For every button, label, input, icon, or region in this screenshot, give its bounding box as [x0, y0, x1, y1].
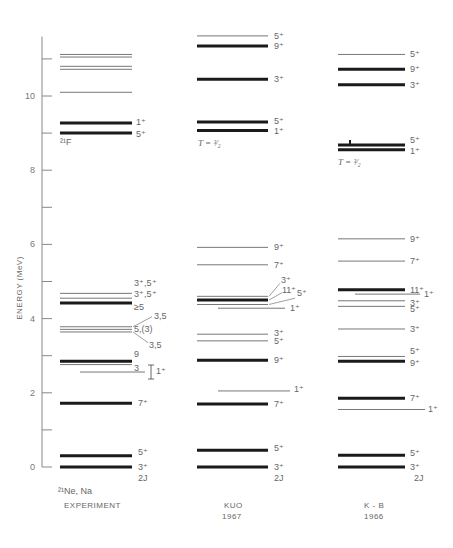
kuo-label: 11⁺ [282, 285, 296, 295]
kb-title: K - B [364, 501, 384, 510]
y-axis: 0246810 [25, 37, 52, 472]
kb-label: 5⁺ [410, 49, 420, 59]
exp-label: 5⁺ [136, 129, 146, 139]
kuo-label: 9⁺ [274, 355, 284, 365]
kb-label: 7⁺ [410, 256, 420, 266]
exp-label: 3⁺ [138, 462, 148, 472]
kb-label: 3⁺ [410, 324, 420, 334]
kuo-label: 3⁺ [274, 74, 284, 84]
kuo-label: 3⁺ [274, 328, 284, 338]
exp-label: 3⁺,5⁺ [134, 278, 157, 288]
level-labels: 3⁺5⁺7⁺931⁺5,(3)3,53,5≥53⁺,5⁺3⁺,5⁺5⁺1⁺3⁺5… [133, 31, 438, 472]
kuo-label: 1⁺ [290, 303, 300, 313]
exp-label: 3,5 [149, 340, 162, 350]
y-tick-label: 4 [30, 314, 35, 324]
exp-label: 3,5 [154, 311, 167, 321]
y-axis-title: ENERGY (MeV) [15, 256, 24, 320]
experiment-21F-note: ²¹F [60, 137, 72, 147]
kuo-label: 3⁺ [274, 462, 284, 472]
kb-label: 11⁺ [410, 285, 424, 295]
kuo-label: 1⁺ [294, 384, 304, 394]
kb-label: 3⁺ [410, 462, 420, 472]
exp-label: ≥5 [134, 302, 144, 312]
y-tick-label: 10 [25, 91, 35, 101]
kb-label: 3⁺ [410, 298, 420, 308]
kb-label: 9⁺ [410, 358, 420, 368]
kuo-label: 1⁺ [274, 126, 284, 136]
kb-isospin-note: T = ³⁄₂ [338, 157, 361, 167]
kb-label: 5⁺ [410, 135, 420, 145]
kb-label: 1⁺ [410, 146, 420, 156]
exp-label: 1⁺ [136, 117, 146, 127]
kb-year: 1966 [364, 512, 384, 521]
kuo-label: 5⁺ [297, 288, 307, 298]
kb-label: 5⁺ [410, 346, 420, 356]
exp-label: 5,(3) [134, 324, 153, 334]
y-tick-label: 6 [30, 239, 35, 249]
kuo-label: 7⁺ [274, 399, 284, 409]
experiment-title: EXPERIMENT [64, 501, 121, 510]
experiment-nucleus-label: ²¹Ne, Na [58, 486, 92, 496]
kb-label: 9⁺ [410, 64, 420, 74]
kuo-isospin-note: T = ³⁄₂ [198, 138, 221, 148]
levels [60, 36, 425, 467]
kuo-label: 3⁺ [281, 275, 291, 285]
exp-label: 3 [134, 363, 139, 373]
y-tick-label: 8 [30, 165, 35, 175]
kb-label: 7⁺ [410, 393, 420, 403]
y-tick-label: 0 [30, 462, 35, 472]
exp-label: 1⁺ [156, 366, 166, 376]
exp-label: 3⁺,5⁺ [134, 289, 157, 299]
kuo-title: KUO [224, 501, 243, 510]
kuo-label: 5⁺ [274, 443, 284, 453]
kuo-label: 7⁺ [274, 260, 284, 270]
kuo-label: 9⁺ [274, 242, 284, 252]
kb-label: 1⁺ [428, 404, 438, 414]
exp-label: 5⁺ [138, 447, 148, 457]
exp-label: 7⁺ [138, 398, 148, 408]
kuo-year: 1967 [222, 512, 242, 521]
exp-label: 9 [134, 349, 139, 359]
kb-label: 5⁺ [410, 448, 420, 458]
kb-spin-label: 2J [414, 473, 424, 483]
kuo-spin-label: 2J [274, 473, 284, 483]
kuo-label: 9⁺ [274, 41, 284, 51]
tick-mark [349, 140, 351, 145]
kb-label: 3⁺ [410, 80, 420, 90]
kb-label: 9⁺ [410, 234, 420, 244]
energy-level-diagram: 0246810 3⁺5⁺7⁺931⁺5,(3)3,53,5≥53⁺,5⁺3⁺,5… [0, 0, 453, 548]
experiment-spin-label: 2J [138, 473, 148, 483]
kuo-label: 5⁺ [274, 31, 284, 41]
kuo-label: 5⁺ [274, 116, 284, 126]
kb-label: 1⁺ [424, 289, 434, 299]
y-tick-label: 2 [30, 388, 35, 398]
